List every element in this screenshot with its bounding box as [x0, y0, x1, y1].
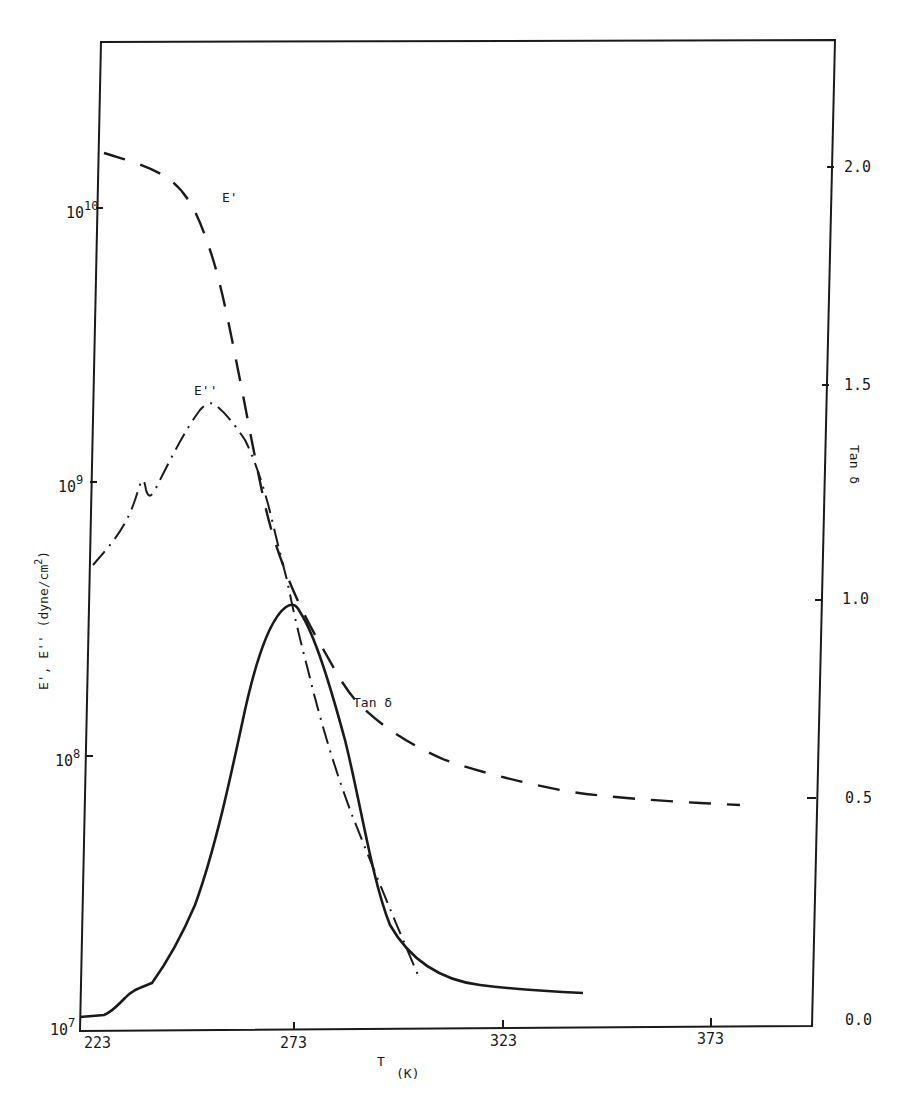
y2-axis-title: Tan δ	[847, 445, 862, 484]
x-tick-373: 373	[697, 1030, 724, 1048]
label-e-double-prime: E''	[194, 383, 217, 398]
label-e-prime: E'	[222, 190, 238, 205]
y2-tick-1-0: 1.0	[842, 590, 869, 608]
y-axis-title: E', E'' (dyne/cm2)	[33, 551, 51, 690]
y-tick-10e10: 1010	[66, 199, 99, 222]
left-axis-tick-labels: 1010 109 108 107	[50, 199, 99, 1039]
x-tick-223: 223	[84, 1034, 111, 1052]
svg-text:T: T	[377, 1054, 385, 1069]
x-tick-273: 273	[280, 1034, 307, 1052]
chart-canvas: 1010 109 108 107 E', E'' (dyne/cm2) 2.0 …	[0, 0, 909, 1100]
right-axis-tick-labels: 2.0 1.5 1.0 0.5 0.0	[842, 158, 872, 1029]
label-tan-delta: Tan δ	[353, 695, 392, 710]
x-axis-title: T (K)	[377, 1054, 419, 1081]
y-tick-10e8: 108	[55, 747, 80, 770]
series-tan-delta	[80, 605, 583, 1017]
x-tick-323: 323	[490, 1032, 517, 1050]
y2-tick-2-0: 2.0	[844, 158, 871, 176]
x-axis-tick-labels: 223 273 323 373	[84, 1030, 724, 1052]
y2-tick-0-0: 0.0	[845, 1011, 872, 1029]
y-tick-10e9: 109	[58, 473, 83, 496]
plot-frame	[80, 40, 835, 1031]
y2-tick-0-5: 0.5	[845, 789, 872, 807]
series-e-double-prime	[93, 403, 418, 975]
y2-tick-1-5: 1.5	[844, 376, 871, 394]
y-tick-10e7: 107	[50, 1016, 75, 1039]
series-e-prime	[104, 153, 740, 805]
svg-text:(K): (K)	[396, 1066, 419, 1081]
